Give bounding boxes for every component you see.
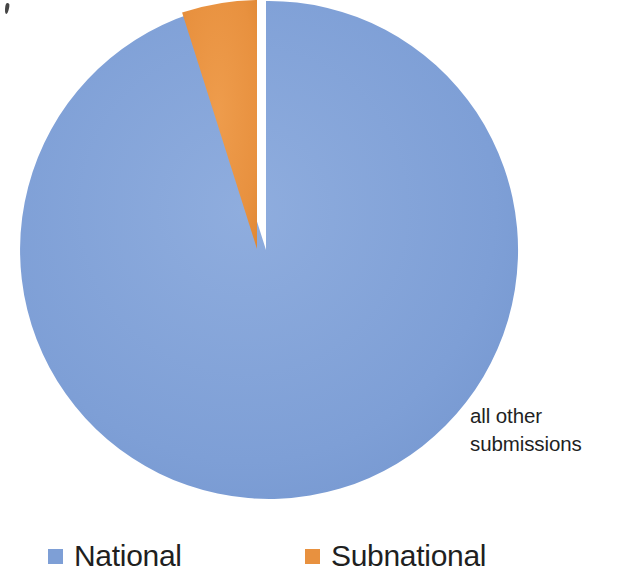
legend-label-subnational: Subnational	[331, 539, 486, 573]
square-marker-icon	[305, 549, 320, 564]
annotation-all-other-submissions: all other submissions	[470, 402, 627, 458]
legend-label-national: National	[74, 539, 182, 573]
pie-chart: all other submissions National Subnation…	[0, 0, 627, 586]
pie-plot-area: all other submissions	[0, 0, 627, 510]
pie-slice-national[interactable]	[20, 1, 518, 499]
annotation-line-2: submissions	[470, 430, 627, 458]
annotation-line-1: all other	[470, 402, 627, 430]
chart-legend: National Subnational	[0, 536, 627, 586]
legend-item-subnational[interactable]: Subnational	[305, 536, 486, 576]
legend-item-national[interactable]: National	[48, 536, 182, 576]
square-marker-icon	[48, 549, 63, 564]
